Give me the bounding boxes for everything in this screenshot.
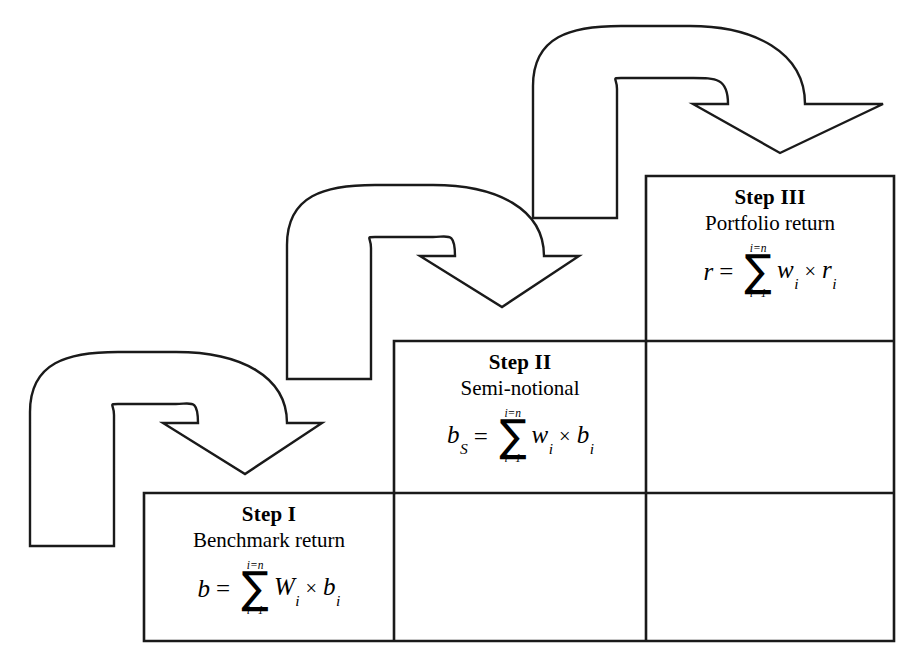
step-2-factor-1: wi [532,422,554,452]
step-1-factor-2-base: b [323,573,336,600]
step-3-title: Step III [734,186,805,210]
sigma-icon: ∑ [499,420,526,452]
step-1-factor-1-sub: i [295,592,299,609]
diagram-canvas: Step I Benchmark return b= i=n ∑ i=1 Wi … [0,0,921,660]
step-3-subtitle: Portfolio return [705,211,835,235]
step-2-subtitle: Semi-notional [461,376,580,400]
step-3-summation: i=n ∑ i=1 [743,243,773,300]
step-1-factor-2-sub: i [336,592,340,609]
multiply-icon: × [559,426,571,447]
step-1-subtitle: Benchmark return [193,528,345,552]
sigma-icon: ∑ [241,572,268,604]
step-3-lhs: r [703,259,713,284]
step-1-summation: i=n ∑ i=1 [240,560,270,617]
step-box-3: Step III Portfolio return r= i=n ∑ i=1 w… [646,176,894,341]
step-2-summation: i=n ∑ i=1 [498,408,528,465]
step-1-equals: = [216,576,230,601]
step-2-factor-1-base: w [532,421,549,448]
step-2-factor-2: bi [577,422,594,452]
step-3-factor-2: ri [822,257,837,287]
step-3-factor-1-base: w [777,256,794,283]
step-2-formula: bS= i=n ∑ i=1 wi × bi [446,409,594,466]
step-2-lhs: bS [447,422,468,452]
step-3-factor-1: wi [777,257,799,287]
step-1-factor-1: Wi [274,574,300,604]
sigma-icon: ∑ [744,255,771,287]
step-2-lhs-base: b [447,421,460,448]
step-1-formula: b= i=n ∑ i=1 Wi × bi [198,561,341,618]
step-box-1: Step I Benchmark return b= i=n ∑ i=1 Wi … [144,493,394,641]
step-3-factor-2-sub: i [832,275,836,292]
step-3-factor-2-base: r [822,256,832,283]
step-2-lhs-sub: S [460,440,468,457]
step-2-factor-2-base: b [577,421,590,448]
step-1-factor-1-base: W [274,573,295,600]
step-1-lhs: b [198,576,211,601]
step-1-title: Step I [242,503,296,527]
step-3-equals: = [719,259,733,284]
step-2-title: Step II [489,351,552,375]
step-3-factor-1-sub: i [794,275,798,292]
multiply-icon: × [306,578,318,599]
step-3-formula: r= i=n ∑ i=1 wi × ri [703,244,836,301]
step-1-factor-2: bi [323,574,340,604]
multiply-icon: × [804,261,816,282]
step-2-factor-1-sub: i [549,440,553,457]
step-box-2: Step II Semi-notional bS= i=n ∑ i=1 wi ×… [394,341,646,493]
step-2-factor-2-sub: i [590,440,594,457]
step-2-equals: = [474,424,488,449]
